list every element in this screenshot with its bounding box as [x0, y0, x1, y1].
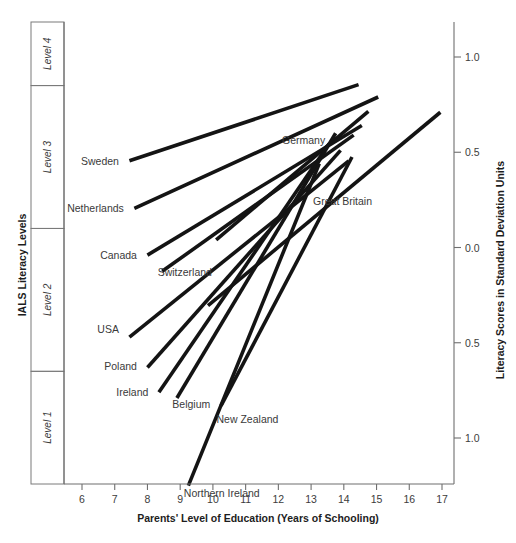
- series-label: Poland: [104, 360, 137, 372]
- series-labels-group: SwedenNetherlandsGermanyCanadaSwitzerlan…: [67, 134, 372, 499]
- series-label: Sweden: [81, 155, 119, 167]
- series-label: Ireland: [116, 386, 148, 398]
- left-axis-title: IALS Literacy Levels: [16, 213, 28, 316]
- level-box-labels: Level 4Level 3Level 2Level 1: [42, 37, 53, 444]
- series-line: [129, 161, 348, 337]
- x-axis-tick-label: 11: [240, 493, 251, 505]
- series-label: Germany: [282, 134, 326, 146]
- y-axis: 1.00.50.00.51.0: [454, 51, 480, 444]
- x-axis-tick-label: 10: [207, 493, 219, 505]
- literacy-level-label: Level 2: [42, 283, 53, 316]
- y-axis-tick-label: 0.5: [465, 337, 480, 349]
- y-axis-tick-label: 1.0: [465, 432, 480, 444]
- series-line: [216, 111, 368, 240]
- series-line: [188, 164, 319, 486]
- y-axis-title: Literacy Scores in Standard Deviation Un…: [494, 161, 506, 379]
- series-label: Netherlands: [67, 202, 124, 214]
- literacy-level-label: Level 1: [42, 412, 53, 444]
- x-axis-tick-label: 14: [338, 493, 350, 505]
- x-axis-tick-label: 13: [305, 493, 317, 505]
- series-label: New Zealand: [217, 413, 279, 425]
- series-label: Great Britain: [313, 195, 372, 207]
- y-axis-tick-label: 0.5: [465, 146, 480, 158]
- x-axis-tick-label: 6: [79, 493, 85, 505]
- x-axis-tick-label: 8: [145, 493, 151, 505]
- x-axis-tick-label: 9: [177, 493, 183, 505]
- x-axis-title: Parents' Level of Education (Years of Sc…: [137, 512, 379, 524]
- y-axis-tick-label: 0.0: [465, 242, 480, 254]
- x-axis-tick-label: 7: [112, 493, 118, 505]
- series-line: [134, 97, 378, 208]
- series-label: Canada: [100, 249, 137, 261]
- series-label: USA: [97, 323, 119, 335]
- series-label: Switzerland: [158, 266, 212, 278]
- x-axis-tick-label: 17: [436, 493, 448, 505]
- series-label: Belgium: [172, 398, 210, 410]
- x-axis-tick-label: 15: [371, 493, 383, 505]
- y-axis-tick-label: 1.0: [465, 51, 480, 63]
- x-axis-tick-label: 16: [403, 493, 415, 505]
- literacy-education-chart: Level 4Level 3Level 2Level 1 SwedenNethe…: [0, 0, 516, 543]
- literacy-level-label: Level 4: [42, 37, 53, 70]
- x-axis-tick-label: 12: [273, 493, 285, 505]
- chart-canvas: Level 4Level 3Level 2Level 1 SwedenNethe…: [0, 0, 516, 543]
- literacy-level-label: Level 3: [42, 140, 53, 173]
